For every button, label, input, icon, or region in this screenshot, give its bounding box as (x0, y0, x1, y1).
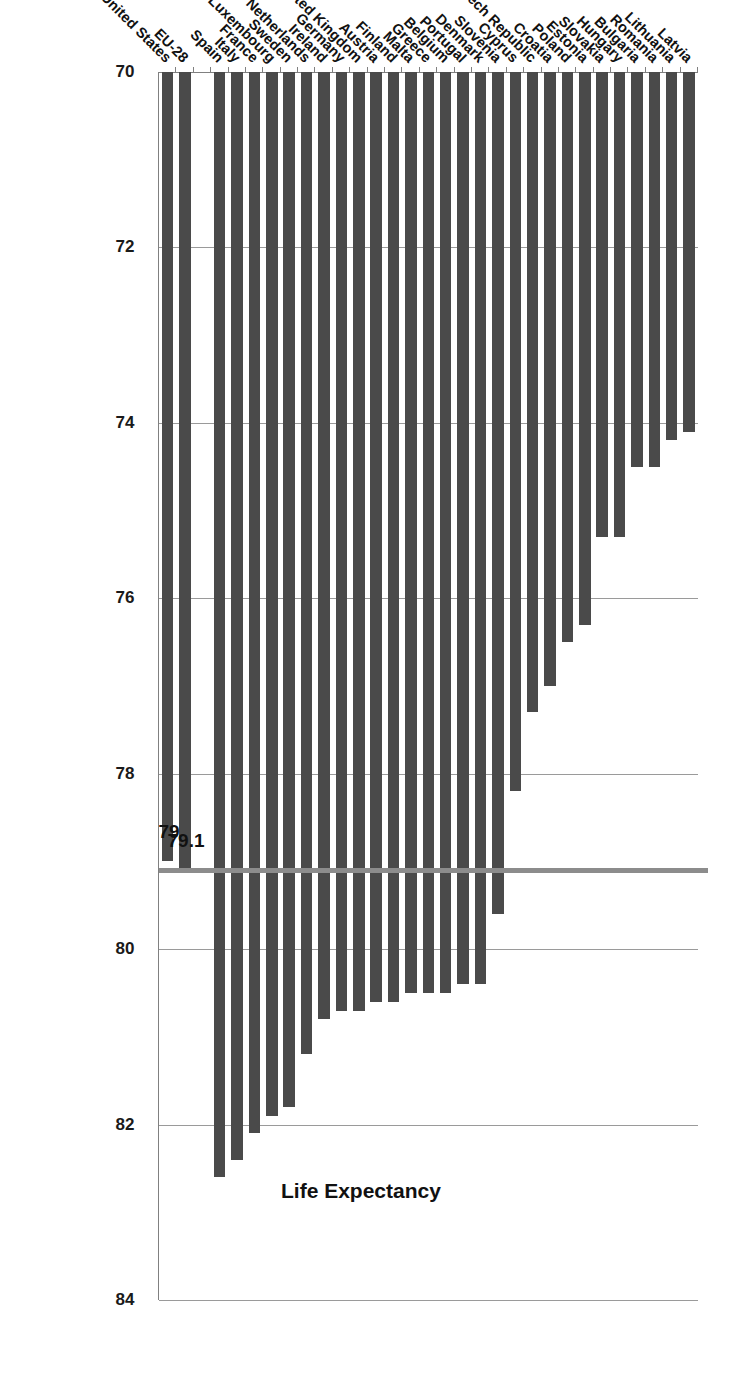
category-tick (332, 67, 333, 72)
bar-hungary[interactable] (614, 72, 625, 537)
bar-row (353, 72, 364, 1300)
bar-row (475, 72, 486, 1300)
category-tick (593, 67, 594, 72)
bar-row (440, 72, 451, 1300)
category-tick (384, 67, 385, 72)
bar-row (562, 72, 573, 1300)
bar-spain[interactable] (214, 72, 225, 1177)
category-tick (506, 67, 507, 72)
category-tick (558, 67, 559, 72)
bar-row (301, 72, 312, 1300)
category-tick (697, 67, 698, 72)
bar-bulgaria[interactable] (631, 72, 642, 467)
bar-ireland[interactable] (318, 72, 329, 1019)
bar-poland[interactable] (562, 72, 573, 642)
bar-sweden[interactable] (284, 72, 295, 1107)
category-tick (401, 67, 402, 72)
bar-row (579, 72, 590, 1300)
bar-denmark[interactable] (475, 72, 486, 984)
bar-italy[interactable] (231, 72, 242, 1160)
category-tick (280, 67, 281, 72)
bar-portugal[interactable] (457, 72, 468, 984)
bar-row (649, 72, 660, 1300)
bar-cyprus[interactable] (510, 72, 521, 791)
category-tick (627, 67, 628, 72)
bar-row (388, 72, 399, 1300)
bar-greece[interactable] (423, 72, 434, 993)
category-tick (680, 67, 681, 72)
bar-czech-republic[interactable] (527, 72, 538, 712)
chart-screenshot: Life Expectancy 7072747678808284 LatviaL… (0, 0, 738, 1398)
bar-austria[interactable] (370, 72, 381, 1002)
bar-eu-28[interactable] (179, 72, 190, 870)
bar-row (683, 72, 694, 1300)
bar-latvia[interactable] (683, 72, 694, 432)
category-tick (541, 67, 542, 72)
bar-romania[interactable] (649, 72, 660, 467)
bar-row (249, 72, 260, 1300)
category-tick (645, 67, 646, 72)
bar-row (510, 72, 521, 1300)
bar-row (179, 72, 190, 1300)
value-tick-label: 84 (105, 1290, 145, 1310)
bar-luxembourg[interactable] (266, 72, 277, 1116)
bar-row (266, 72, 277, 1300)
chart-figure: Life Expectancy 7072747678808284 LatviaL… (0, 0, 738, 1398)
category-label-united-states: United States (7, 0, 174, 66)
category-tick (367, 67, 368, 72)
category-tick (610, 67, 611, 72)
bar-row (405, 72, 416, 1300)
bar-row (370, 72, 381, 1300)
bar-row (492, 72, 503, 1300)
bar-row (457, 72, 468, 1300)
value-tick-label: 78 (105, 764, 145, 784)
value-tick-label: 70 (105, 62, 145, 82)
bar-row (527, 72, 538, 1300)
bar-row (631, 72, 642, 1300)
bar-slovenia[interactable] (492, 72, 503, 914)
bar-slovakia[interactable] (596, 72, 607, 537)
bar-france[interactable] (249, 72, 260, 1133)
value-tick-label: 76 (105, 588, 145, 608)
category-tick (297, 67, 298, 72)
bar-lithuania[interactable] (666, 72, 677, 440)
bar-row (318, 72, 329, 1300)
bar-croatia[interactable] (544, 72, 555, 686)
value-tick-label: 72 (105, 237, 145, 257)
category-tick (488, 67, 489, 72)
category-tick (314, 67, 315, 72)
category-tick (419, 67, 420, 72)
bar-row (214, 72, 225, 1300)
value-tick-label: 82 (105, 1115, 145, 1135)
gridline (159, 1300, 698, 1301)
bar-finland[interactable] (388, 72, 399, 1002)
bar-row (231, 72, 242, 1300)
value-tick-label: 74 (105, 413, 145, 433)
bar-malta[interactable] (405, 72, 416, 993)
category-tick (454, 67, 455, 72)
category-tick (262, 67, 263, 72)
bar-row (162, 72, 173, 1300)
category-axis-line (158, 72, 159, 1300)
data-label: 79 (146, 821, 192, 843)
bar-row (596, 72, 607, 1300)
category-tick (523, 67, 524, 72)
category-tick (575, 67, 576, 72)
bar-row (614, 72, 625, 1300)
bar-row (336, 72, 347, 1300)
bar-row (544, 72, 555, 1300)
bar-netherlands[interactable] (301, 72, 312, 1054)
bar-row (666, 72, 677, 1300)
plot-area (159, 72, 698, 1300)
value-tick-label: 80 (105, 939, 145, 959)
bar-row (423, 72, 434, 1300)
bar-row (284, 72, 295, 1300)
category-tick (349, 67, 350, 72)
bar-estonia[interactable] (579, 72, 590, 625)
category-tick (662, 67, 663, 72)
category-tick (245, 67, 246, 72)
bar-belgium[interactable] (440, 72, 451, 993)
category-tick (228, 67, 229, 72)
category-tick (436, 67, 437, 72)
bar-united-states[interactable] (162, 72, 173, 861)
